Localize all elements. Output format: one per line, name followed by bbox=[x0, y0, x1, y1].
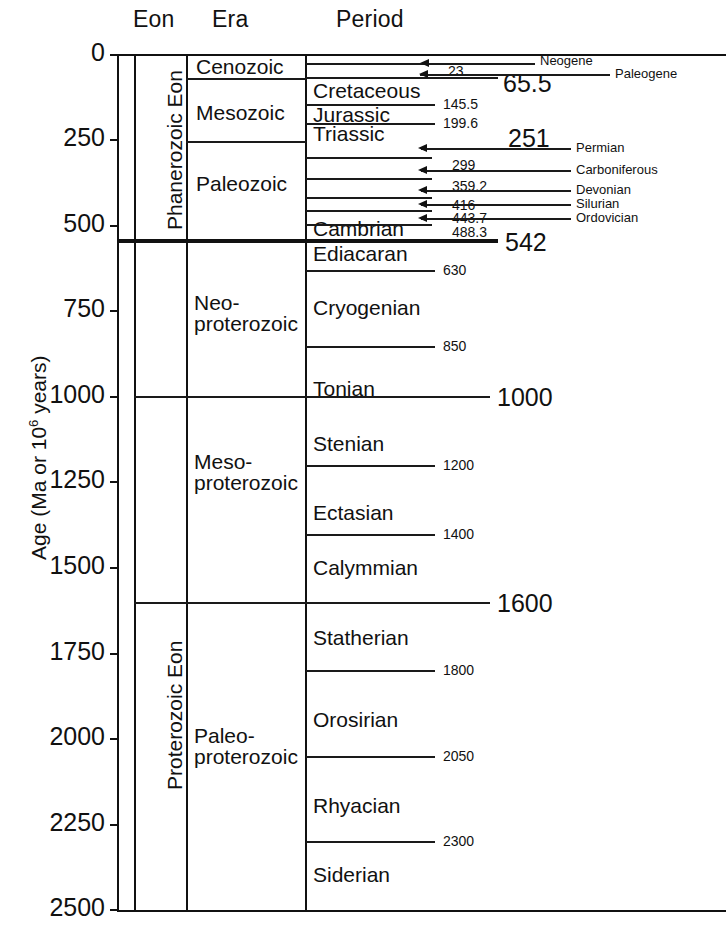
period-label-cryogenian: Cryogenian bbox=[313, 297, 420, 319]
boundary-age-1200: 1200 bbox=[443, 457, 474, 473]
era-boundary-line-251 bbox=[186, 141, 306, 143]
callout-label-permian: Permian bbox=[576, 140, 624, 155]
frame-bottom-line bbox=[117, 910, 726, 912]
era-boundary-line-1600 bbox=[134, 602, 490, 604]
period-label-siderian: Siderian bbox=[313, 864, 390, 886]
period-boundary-line-1400 bbox=[306, 534, 435, 536]
callout-leader-carboniferous bbox=[421, 170, 571, 172]
era-label-mesoproterozoic-line1: Meso- bbox=[194, 451, 298, 472]
y-axis-tick-label-750: 750 bbox=[10, 294, 105, 323]
period-boundary-line-1800 bbox=[306, 670, 435, 672]
y-axis-tick-label-2250: 2250 bbox=[10, 808, 105, 837]
eon-label-proterozoic: Proterozoic Eon bbox=[163, 641, 187, 790]
period-label-calymmian: Calymmian bbox=[313, 557, 418, 579]
boundary-age-630: 630 bbox=[443, 262, 466, 278]
callout-label-paleogene: Paleogene bbox=[615, 66, 677, 81]
callout-age-ordovician: 488.3 bbox=[452, 224, 487, 240]
period-label-statherian: Statherian bbox=[313, 627, 409, 649]
period-boundary-line-145_5 bbox=[306, 104, 435, 106]
period-boundary-line-850 bbox=[306, 346, 435, 348]
eon-column-left-border bbox=[134, 55, 136, 912]
arrowhead-carboniferous-icon bbox=[418, 166, 427, 174]
callout-leader-silurian bbox=[421, 204, 571, 206]
callout-age-carboniferous: 359.2 bbox=[452, 178, 487, 194]
era-label-cenozoic: Cenozoic bbox=[196, 56, 284, 78]
y-axis-tick-label-1250: 1250 bbox=[10, 465, 105, 494]
era-label-mesozoic: Mesozoic bbox=[196, 102, 285, 124]
callout-label-neogene: Neogene bbox=[540, 53, 593, 68]
era-boundary-line-1000 bbox=[134, 396, 490, 398]
period-label-orosirian: Orosirian bbox=[313, 709, 398, 731]
era-label-mesoproterozoic: Meso- proterozoic bbox=[194, 451, 298, 493]
y-axis-tick-750 bbox=[110, 310, 119, 312]
y-axis-tick-label-2500: 2500 bbox=[10, 893, 105, 922]
callout-label-carboniferous: Carboniferous bbox=[576, 162, 658, 177]
callout-leader-permian bbox=[421, 148, 571, 150]
y-axis-tick-2000 bbox=[110, 738, 119, 740]
boundary-age-2300: 2300 bbox=[443, 833, 474, 849]
period-label-stenian: Stenian bbox=[313, 433, 384, 455]
y-axis-tick-label-1750: 1750 bbox=[10, 637, 105, 666]
era-label-neoproterozoic-line1: Neo- bbox=[194, 292, 298, 313]
y-axis-tick-label-500: 500 bbox=[10, 209, 105, 238]
period-label-cretaceous: Cretaceous bbox=[313, 80, 420, 102]
y-axis-tick-1000 bbox=[110, 396, 119, 398]
arrowhead-silurian-icon bbox=[418, 200, 427, 208]
era-column-right-border bbox=[305, 55, 307, 912]
callout-leader-ordovician bbox=[421, 218, 571, 220]
period-label-cambrian: Cambrian bbox=[313, 218, 404, 240]
y-axis-tick-250 bbox=[110, 139, 119, 141]
y-axis-tick-label-2000: 2000 bbox=[10, 722, 105, 751]
era-label-paleoproterozoic-line2: proterozoic bbox=[194, 746, 298, 767]
y-axis-tick-500 bbox=[110, 225, 119, 227]
callout-leader-devonian bbox=[421, 190, 571, 192]
era-label-neoproterozoic-line2: proterozoic bbox=[194, 313, 298, 334]
period-label-triassic: Triassic bbox=[313, 123, 385, 145]
era-label-mesoproterozoic-line2: proterozoic bbox=[194, 472, 298, 493]
era-label-neoproterozoic: Neo- proterozoic bbox=[194, 292, 298, 334]
era-label-paleoproterozoic-line1: Paleo- bbox=[194, 725, 298, 746]
arrowhead-neogene-icon bbox=[420, 59, 429, 67]
y-axis-title-exponent: 6 bbox=[26, 420, 41, 427]
callout-label-ordovician: Ordovician bbox=[576, 210, 638, 225]
period-label-tonian: Tonian bbox=[313, 378, 375, 400]
y-axis-tick-label-0: 0 bbox=[10, 38, 105, 67]
eon-boundary-line-542 bbox=[117, 239, 498, 243]
y-axis-tick-1500 bbox=[110, 567, 119, 569]
boundary-age-1800: 1800 bbox=[443, 662, 474, 678]
period-label-ediacaran: Ediacaran bbox=[313, 243, 408, 265]
callout-label-devonian: Devonian bbox=[576, 182, 631, 197]
era-label-paleozoic: Paleozoic bbox=[196, 173, 287, 195]
boundary-age-145_5: 145.5 bbox=[443, 96, 478, 112]
y-axis-tick-1250 bbox=[110, 481, 119, 483]
boundary-age-2050: 2050 bbox=[443, 748, 474, 764]
era-label-paleoproterozoic: Paleo- proterozoic bbox=[194, 725, 298, 767]
y-axis-tick-label-1500: 1500 bbox=[10, 551, 105, 580]
period-label-ectasian: Ectasian bbox=[313, 502, 394, 524]
boundary-age-1000: 1000 bbox=[497, 383, 553, 412]
y-axis-line bbox=[117, 55, 119, 912]
callout-leader-paleogene bbox=[420, 74, 610, 76]
era-boundary-line-65_5 bbox=[186, 78, 306, 80]
period-boundary-line-1200 bbox=[306, 465, 435, 467]
y-axis-tick-label-1000: 1000 bbox=[10, 380, 105, 409]
callout-line-ordovician-boundary bbox=[306, 224, 432, 226]
callout-line-devonian-boundary bbox=[306, 197, 432, 199]
arrowhead-ordovician-icon bbox=[418, 214, 427, 222]
period-label-rhyacian: Rhyacian bbox=[313, 795, 401, 817]
column-header-era: Era bbox=[212, 6, 248, 33]
arrowhead-permian-icon bbox=[418, 144, 427, 152]
period-boundary-line-630 bbox=[306, 270, 435, 272]
period-boundary-line-199_6 bbox=[306, 123, 435, 125]
arrowhead-paleogene-icon bbox=[419, 70, 428, 78]
eon-label-phanerozoic: Phanerozoic Eon bbox=[163, 70, 187, 230]
period-boundary-line-2050 bbox=[306, 756, 435, 758]
callout-label-silurian: Silurian bbox=[576, 196, 619, 211]
y-axis-tick-1750 bbox=[110, 653, 119, 655]
y-axis-tick-label-250: 250 bbox=[10, 123, 105, 152]
callout-line-permian-boundary bbox=[306, 157, 432, 159]
boundary-age-1400: 1400 bbox=[443, 526, 474, 542]
boundary-age-199_6: 199.6 bbox=[443, 115, 478, 131]
geologic-time-scale-chart: Eon Era Period Age (Ma or 106 years) 0 2… bbox=[0, 0, 726, 949]
callout-line-silurian-boundary bbox=[306, 210, 432, 212]
